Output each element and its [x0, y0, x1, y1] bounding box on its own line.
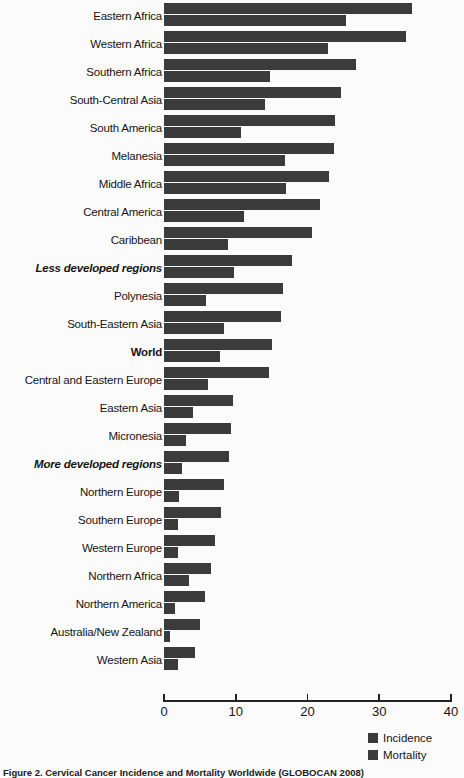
bar-row: Caribbean	[0, 226, 464, 254]
bar-row-label: Central America	[4, 198, 162, 226]
figure-caption: Figure 2. Cervical Cancer Incidence and …	[3, 767, 458, 778]
figure-container: Eastern AfricaWestern AfricaSouthern Afr…	[0, 0, 464, 778]
bar-pair	[164, 590, 464, 618]
bar-row: South America	[0, 114, 464, 142]
bar-row-label: Southern Africa	[4, 58, 162, 86]
bar-pair	[164, 394, 464, 422]
bar-row: Melanesia	[0, 142, 464, 170]
bar-row-label: More developed regions	[4, 450, 162, 478]
bar-pair	[164, 114, 464, 142]
bar-row-label: World	[4, 338, 162, 366]
bar-row: Central America	[0, 198, 464, 226]
bar-mortality	[164, 659, 178, 670]
bar-mortality	[164, 435, 186, 446]
bar-mortality	[164, 211, 244, 222]
bar-incidence	[164, 367, 269, 378]
x-axis-tick-label: 10	[216, 704, 256, 719]
legend-label: Mortality	[383, 749, 426, 761]
bar-row-label: Australia/New Zealand	[4, 618, 162, 646]
legend-label: Incidence	[383, 732, 432, 744]
bar-incidence	[164, 535, 215, 546]
bar-row: More developed regions	[0, 450, 464, 478]
bar-incidence	[164, 171, 329, 182]
bar-row: Northern Europe	[0, 478, 464, 506]
bar-incidence	[164, 507, 221, 518]
bar-incidence	[164, 479, 224, 490]
bar-pair	[164, 86, 464, 114]
bar-row-label: Less developed regions	[4, 254, 162, 282]
bar-row: Northern America	[0, 590, 464, 618]
bar-pair	[164, 646, 464, 674]
bar-mortality	[164, 267, 234, 278]
bar-pair	[164, 30, 464, 58]
bar-row: Eastern Asia	[0, 394, 464, 422]
bar-pair	[164, 142, 464, 170]
bar-mortality	[164, 43, 328, 54]
bar-pair	[164, 226, 464, 254]
bar-incidence	[164, 59, 356, 70]
bar-row-label: Western Asia	[4, 646, 162, 674]
bar-mortality	[164, 603, 175, 614]
bar-row-label: Micronesia	[4, 422, 162, 450]
bar-pair	[164, 506, 464, 534]
bar-mortality	[164, 15, 346, 26]
bar-row: World	[0, 338, 464, 366]
bar-row: Southern Europe	[0, 506, 464, 534]
bar-mortality	[164, 183, 286, 194]
bar-row: Western Africa	[0, 30, 464, 58]
bar-incidence	[164, 311, 281, 322]
bar-row: Less developed regions	[0, 254, 464, 282]
chart-legend: IncidenceMortality	[368, 729, 464, 763]
bar-incidence	[164, 3, 412, 14]
bar-row: Central and Eastern Europe	[0, 366, 464, 394]
bar-row-label: South-Central Asia	[4, 86, 162, 114]
legend-swatch-icon	[368, 750, 378, 760]
bar-pair	[164, 2, 464, 30]
bar-row: Northern Africa	[0, 562, 464, 590]
bar-row-label: Melanesia	[4, 142, 162, 170]
bar-mortality	[164, 575, 189, 586]
x-axis-tick	[307, 694, 309, 702]
bar-mortality	[164, 463, 182, 474]
bar-pair	[164, 170, 464, 198]
bar-incidence	[164, 227, 312, 238]
bar-pair	[164, 562, 464, 590]
bar-row: Western Asia	[0, 646, 464, 674]
legend-swatch-icon	[368, 733, 378, 743]
bar-row-label: Western Europe	[4, 534, 162, 562]
bar-row: Southern Africa	[0, 58, 464, 86]
bar-mortality	[164, 71, 270, 82]
bar-row-label: Caribbean	[4, 226, 162, 254]
legend-item: Incidence	[368, 729, 464, 746]
bar-row-label: Western Africa	[4, 30, 162, 58]
bar-mortality	[164, 295, 206, 306]
x-axis-tick-label: 20	[288, 704, 328, 719]
bar-incidence	[164, 339, 272, 350]
bar-pair	[164, 254, 464, 282]
bar-pair	[164, 534, 464, 562]
bar-incidence	[164, 143, 334, 154]
bar-incidence	[164, 395, 233, 406]
bar-incidence	[164, 31, 406, 42]
x-axis-tick	[235, 694, 237, 702]
bar-mortality	[164, 323, 224, 334]
bar-row: Western Europe	[0, 534, 464, 562]
bar-pair	[164, 366, 464, 394]
bar-row-label: Eastern Asia	[4, 394, 162, 422]
bar-mortality	[164, 351, 220, 362]
bar-mortality	[164, 547, 178, 558]
bar-row: South-Central Asia	[0, 86, 464, 114]
bar-pair	[164, 282, 464, 310]
bar-pair	[164, 450, 464, 478]
bar-row-label: Southern Europe	[4, 506, 162, 534]
caption-text: Figure 2. Cervical Cancer Incidence and …	[3, 767, 364, 778]
x-axis-tick	[450, 694, 452, 702]
bar-row-label: Northern Africa	[4, 562, 162, 590]
bar-row: Polynesia	[0, 282, 464, 310]
bar-mortality	[164, 239, 228, 250]
bar-incidence	[164, 255, 292, 266]
bar-incidence	[164, 647, 195, 658]
bar-pair	[164, 338, 464, 366]
bar-mortality	[164, 491, 179, 502]
bar-mortality	[164, 99, 265, 110]
